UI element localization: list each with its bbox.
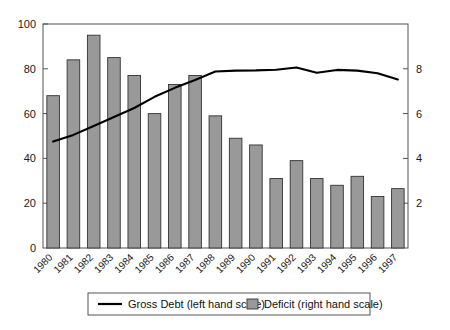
left-tick-label: 100	[18, 18, 36, 30]
left-tick-label: 20	[24, 197, 36, 209]
right-tick-label: 4	[416, 152, 422, 164]
right-tick-label: 6	[416, 108, 422, 120]
deficit-bar	[169, 84, 182, 248]
deficit-bar	[67, 60, 80, 248]
left-tick-label: 40	[24, 152, 36, 164]
deficit-bar	[290, 161, 303, 248]
right-tick-label: 2	[416, 197, 422, 209]
deficit-bar	[371, 196, 384, 248]
legend-label-gross-debt: Gross Debt (left hand scale)	[128, 298, 265, 310]
deficit-bar	[270, 179, 283, 248]
legend-swatch-marker	[247, 299, 258, 309]
gross-debt-deficit-chart: 020406080100 2468 1980198119821983198419…	[0, 0, 450, 330]
deficit-bar	[189, 76, 202, 248]
left-tick-label: 60	[24, 108, 36, 120]
left-tick-label: 80	[24, 63, 36, 75]
deficit-bar	[108, 58, 121, 248]
chart-legend: Gross Debt (left hand scale)Deficit (rig…	[88, 293, 383, 315]
deficit-bar	[148, 114, 161, 248]
deficit-bar	[87, 35, 100, 248]
deficit-bar	[229, 138, 242, 248]
deficit-bar	[331, 185, 344, 248]
left-tick-label: 0	[30, 242, 36, 254]
deficit-bar	[250, 145, 263, 248]
deficit-bar	[209, 116, 222, 248]
right-tick-label: 8	[416, 63, 422, 75]
deficit-bar	[310, 179, 323, 248]
chart-figure: 020406080100 2468 1980198119821983198419…	[0, 0, 450, 330]
deficit-bar	[128, 76, 141, 248]
deficit-bar	[47, 96, 60, 248]
deficit-bar	[392, 189, 405, 248]
legend-label-deficit: Deficit (right hand scale)	[264, 298, 383, 310]
deficit-bar	[351, 176, 364, 248]
